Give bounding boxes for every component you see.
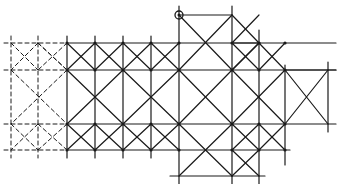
grid-node bbox=[177, 41, 180, 44]
grid-node bbox=[177, 122, 180, 125]
grid-node bbox=[230, 41, 233, 44]
dashed-extension-grid bbox=[4, 36, 67, 158]
grid-node bbox=[93, 148, 96, 151]
grid-node bbox=[65, 148, 68, 151]
grid-node bbox=[257, 122, 260, 125]
grid-node bbox=[257, 148, 260, 151]
grid-node bbox=[121, 122, 124, 125]
grid-node bbox=[65, 122, 68, 125]
dashed-line bbox=[38, 124, 67, 150]
grid-node bbox=[121, 148, 124, 151]
grid-node bbox=[230, 148, 233, 151]
grid-node bbox=[230, 122, 233, 125]
grid-node bbox=[257, 68, 260, 71]
grid-node bbox=[149, 148, 152, 151]
grid-node bbox=[283, 41, 286, 44]
grid-node bbox=[121, 68, 124, 71]
structural-grid-diagram bbox=[0, 0, 341, 184]
grid-drawing bbox=[0, 0, 341, 184]
grid-node bbox=[257, 41, 260, 44]
grid-node bbox=[149, 68, 152, 71]
grid-node bbox=[283, 122, 286, 125]
solid-bracing-grid bbox=[65, 6, 336, 184]
grid-node bbox=[177, 68, 180, 71]
grid-node bbox=[149, 41, 152, 44]
grid-node bbox=[93, 122, 96, 125]
dashed-line bbox=[38, 124, 67, 150]
grid-node bbox=[283, 148, 286, 151]
grid-node bbox=[93, 68, 96, 71]
grid-node bbox=[65, 41, 68, 44]
grid-node bbox=[65, 68, 68, 71]
grid-node bbox=[177, 148, 180, 151]
grid-node bbox=[283, 68, 286, 71]
grid-node bbox=[93, 41, 96, 44]
grid-node bbox=[149, 122, 152, 125]
grid-node bbox=[230, 68, 233, 71]
grid-node bbox=[121, 41, 124, 44]
